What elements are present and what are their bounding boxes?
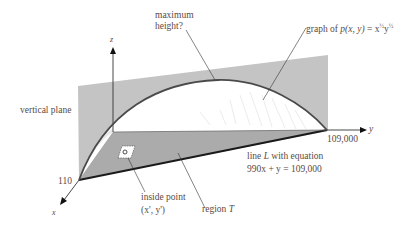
line-l-equation: 990x + y = 109,000 [247, 163, 323, 176]
max-height-label: maximum height? [155, 10, 194, 32]
x-intercept-label: 110 [58, 175, 72, 187]
region-text: region [202, 204, 229, 214]
x-axis-label: x [52, 207, 56, 219]
inside-point-label: inside point (x', y') [141, 191, 186, 217]
max-height-line1: maximum [155, 10, 194, 21]
z-axis-arrow [110, 47, 116, 54]
inside-point-text: inside point [141, 191, 186, 204]
z-axis-label: z [110, 34, 113, 46]
graph-eq: = x [365, 24, 380, 34]
line-l-text: line [247, 151, 264, 161]
line-l-line1: line L with equation [247, 150, 323, 163]
max-height-line2: height? [155, 21, 194, 32]
vertical-plane-label: vertical plane [20, 104, 71, 116]
inside-point-coords: (x', y') [141, 204, 186, 217]
graph-func: p(x, y) [340, 24, 364, 34]
line-l-label: line L with equation 990x + y = 109,000 [247, 150, 323, 176]
graph-prefix: graph of [306, 24, 340, 34]
y-axis-arrow [360, 127, 367, 133]
x-axis-arrow [60, 197, 67, 205]
graph-label: graph of p(x, y) = x½y½ [306, 20, 393, 35]
y-intercept-label: 109,000 [327, 133, 358, 145]
region-t-label: region T [202, 203, 234, 215]
graph-exp2: ½ [389, 23, 394, 29]
line-l-suffix: with equation [269, 151, 323, 161]
region-name: T [229, 204, 234, 214]
y-axis-label: y [369, 123, 373, 135]
